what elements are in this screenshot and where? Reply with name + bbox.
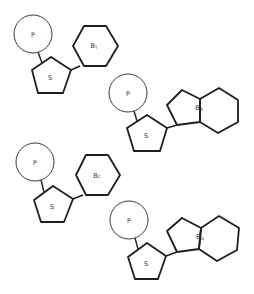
base-label: BT: [90, 42, 97, 50]
phosphate-label: P: [126, 90, 130, 98]
sugar-label: S: [144, 260, 148, 268]
nucleotide-thymine: P S BT: [14, 15, 118, 93]
phosphate-sugar-bond: [134, 111, 137, 121]
nucleotide-adenine: P S BA: [109, 74, 238, 151]
phosphate-label: P: [33, 159, 37, 167]
sugar-base-bond: [71, 66, 80, 70]
base-label: BA: [195, 104, 203, 112]
nucleotide-guanine: P S BG: [110, 201, 239, 279]
base-label: BC: [93, 172, 101, 180]
sugar-base-bond: [73, 195, 83, 199]
sugar-base-bond: [166, 252, 177, 256]
nucleotide-diagram: P S BT P S BA P S BC P S BG: [0, 0, 254, 294]
phosphate-sugar-bond: [38, 52, 42, 63]
phosphate-sugar-bond: [135, 238, 138, 249]
nucleotide-cytosine: P S BC: [16, 143, 120, 222]
phosphate-label: P: [31, 31, 35, 39]
sugar-base-bond: [167, 125, 177, 128]
base-six-ring: [199, 216, 239, 261]
phosphate-sugar-bond: [41, 180, 44, 192]
sugar-label: S: [48, 74, 52, 82]
sugar-label: S: [144, 132, 148, 140]
base-six-ring: [200, 88, 238, 133]
phosphate-label: P: [127, 217, 131, 225]
sugar-label: S: [50, 203, 54, 211]
base-label: BG: [196, 233, 204, 241]
